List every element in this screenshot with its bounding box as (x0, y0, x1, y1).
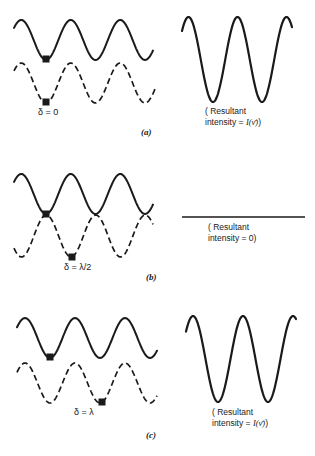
resultant-label-b: ( Resultant intensity = 0) (208, 222, 256, 243)
dashed-wave-b (14, 215, 153, 257)
solid-wave-a (14, 20, 153, 60)
interference-diagram: δ = 0 (a) ( Resultant intensity = I(ν̄))… (0, 0, 315, 456)
phase-marker-b-1 (43, 211, 50, 218)
panel-tag-a: (a) (141, 127, 152, 137)
resultant-label-c-line1: ( Resultant (212, 407, 268, 418)
resultant-label-c: ( Resultant intensity = I(ν̄)) (212, 407, 268, 428)
delta-label-c: δ = λ (74, 407, 94, 417)
panel-tag-b: (b) (146, 272, 157, 282)
phase-marker-c-1 (47, 354, 54, 361)
resultant-prefix: intensity = (205, 117, 246, 127)
resultant-wave-a (182, 17, 292, 102)
resultant-label-a-line1: ( Resultant (205, 106, 261, 117)
resultant-label-a-line2: intensity = I(ν̄)) (205, 117, 261, 128)
intensity-expression: I(ν̄) (253, 418, 265, 428)
resultant-label-b-line2: intensity = 0) (208, 233, 256, 244)
solid-wave-c (17, 318, 157, 358)
phase-marker-b-2 (69, 254, 76, 261)
dashed-wave-c (17, 363, 157, 403)
resultant-label-c-line2: intensity = I(ν̄)) (212, 418, 268, 429)
resultant-label-a: ( Resultant intensity = I(ν̄)) (205, 106, 261, 127)
delta-label-a: δ = 0 (38, 107, 58, 117)
solid-wave-b (14, 174, 153, 214)
dashed-wave-a (14, 63, 155, 103)
resultant-suffix: ) (265, 418, 268, 428)
resultant-label-b-line1: ( Resultant (208, 222, 256, 233)
resultant-wave-c (186, 316, 296, 402)
resultant-prefix: intensity = (212, 418, 253, 428)
resultant-suffix: ) (258, 117, 261, 127)
intensity-expression: I(ν̄) (246, 117, 258, 127)
phase-marker-a-2 (43, 99, 50, 106)
delta-label-b: δ = λ/2 (64, 262, 91, 272)
phase-marker-a-1 (43, 56, 50, 63)
wave-canvas (0, 0, 315, 456)
panel-tag-c: (c) (146, 430, 156, 440)
phase-marker-c-2 (99, 399, 106, 406)
